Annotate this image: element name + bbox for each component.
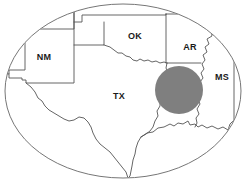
state-label-tx: TX [113, 91, 125, 101]
state-label-ms: MS [215, 72, 229, 82]
state-label-ar: AR [183, 42, 197, 52]
state-label-ok: OK [128, 31, 142, 41]
map-canvas: NM OK AR MS TX [0, 0, 246, 186]
state-label-nm: NM [37, 52, 52, 62]
region-map-figure: NM OK AR MS TX [0, 0, 246, 186]
study-area-circle [155, 66, 203, 114]
mississippi-north-boundary [214, 26, 234, 38]
